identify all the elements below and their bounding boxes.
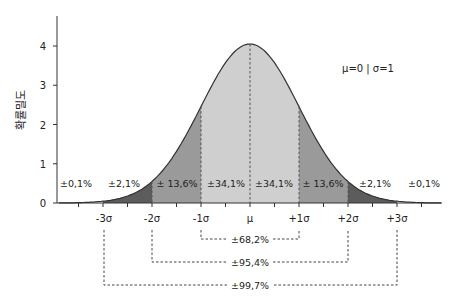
y-tick-3: 3 [40, 80, 46, 91]
normal-distribution-chart: 0 1 2 3 4 확률밀도 -3σ -2σ -1σ μ +1σ +2σ +3σ… [0, 0, 459, 307]
x-tick-plus2sigma: +2σ [337, 213, 359, 224]
bracket-label-68: ±68,2% [231, 234, 269, 245]
bracket-label-99: ±99,7% [231, 280, 269, 291]
region-label-mu-plus1: ±34,1% [255, 178, 293, 189]
region-label-minus1-mu: ±34,1% [207, 178, 245, 189]
y-ticks: 0 1 2 3 4 [40, 41, 57, 209]
x-tick-minus3sigma: -3σ [96, 213, 113, 224]
x-tick-mu: μ [247, 213, 254, 224]
x-tick-labels: -3σ -2σ -1σ μ +1σ +2σ +3σ [96, 213, 408, 224]
y-tick-1: 1 [40, 159, 46, 170]
y-tick-2: 2 [40, 120, 46, 131]
x-ticks [79, 203, 422, 207]
bracket-labels: ±68,2% ±95,4% ±99,7% [228, 233, 272, 291]
y-axis-label: 확률밀도 [15, 90, 28, 130]
y-tick-0: 0 [40, 198, 46, 209]
region-label-plus1-plus2: ± 13,6% [302, 178, 343, 189]
region-label-left-tail: ±0,1% [60, 178, 92, 189]
parameter-annotation: μ=0 | σ=1 [342, 63, 394, 75]
x-tick-minus2sigma: -2σ [144, 213, 161, 224]
region-label-minus3-minus2: ±2,1% [108, 178, 140, 189]
bracket-label-95: ±95,4% [231, 257, 269, 268]
x-tick-plus1sigma: +1σ [288, 213, 310, 224]
x-tick-plus3sigma: +3σ [386, 213, 408, 224]
y-tick-4: 4 [40, 41, 46, 52]
region-label-plus2-plus3: ±2,1% [359, 178, 391, 189]
region-label-right-tail: ±0,1% [408, 178, 440, 189]
region-label-minus2-minus1: ± 13,6% [156, 178, 197, 189]
x-tick-minus1sigma: -1σ [193, 213, 210, 224]
